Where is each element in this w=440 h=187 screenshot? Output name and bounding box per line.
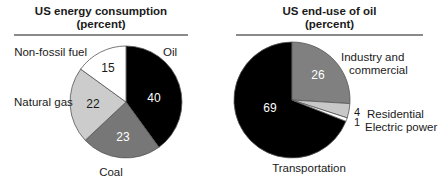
label-electric-power: Electric power [365, 121, 437, 133]
label-residential: Residential [367, 108, 424, 120]
value-coal: 23 [116, 130, 130, 144]
value-oil: 40 [147, 91, 161, 105]
label-natural-gas: Natural gas [14, 96, 73, 108]
label-coal: Coal [99, 166, 123, 178]
label-industry-line2: commercial [349, 64, 408, 76]
value-industry-commercial: 26 [311, 68, 325, 82]
value-electric-power: 1 [354, 116, 360, 128]
value-transportation: 69 [263, 101, 277, 115]
label-oil: Oil [163, 46, 177, 58]
label-transportation: Transportation [272, 162, 346, 174]
value-non-fossil: 15 [101, 61, 115, 75]
value-natural-gas: 22 [86, 97, 100, 111]
oil-end-use-pie [234, 42, 350, 158]
label-industry-line1: Industry and [341, 51, 404, 63]
label-non-fossil: Non-fossil fuel [14, 46, 87, 58]
charts-canvas: 40 23 22 15 Oil Non-fossil fuel Natural … [0, 0, 440, 187]
